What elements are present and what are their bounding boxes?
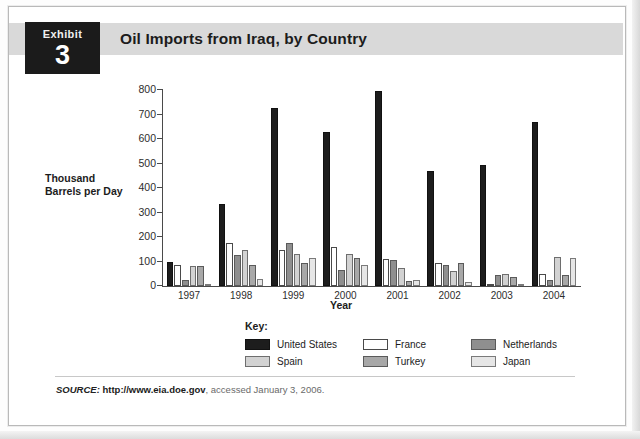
bar bbox=[518, 284, 525, 286]
bar bbox=[338, 270, 345, 286]
y-tick-label: 300 bbox=[112, 206, 156, 218]
bar bbox=[197, 266, 204, 286]
legend-label: Netherlands bbox=[503, 339, 557, 350]
plot-area: 19971998199920002001200220032004 bbox=[163, 90, 580, 286]
y-tick-mark bbox=[157, 212, 163, 213]
bar bbox=[182, 280, 189, 286]
y-tick-mark bbox=[157, 163, 163, 164]
y-tick-mark bbox=[157, 285, 163, 286]
legend-label: Spain bbox=[277, 356, 303, 367]
x-tick-label: 1998 bbox=[215, 290, 267, 301]
scan-edge-bottom bbox=[0, 431, 640, 439]
bar bbox=[532, 122, 539, 286]
bar-group: 1997 bbox=[163, 90, 215, 286]
bar bbox=[309, 258, 316, 286]
bar bbox=[375, 91, 382, 286]
legend-swatch bbox=[363, 339, 388, 350]
bar bbox=[390, 260, 397, 286]
bar-group: 1999 bbox=[267, 90, 319, 286]
bar bbox=[495, 275, 502, 286]
bar bbox=[487, 284, 494, 286]
bar bbox=[271, 108, 278, 286]
y-tick-label: 0 bbox=[112, 279, 156, 291]
legend-label: United States bbox=[277, 339, 337, 350]
bar bbox=[427, 171, 434, 286]
legend-item: France bbox=[363, 339, 471, 350]
bar bbox=[570, 258, 577, 286]
bar bbox=[450, 271, 457, 286]
source-note: SOURCE: http://www.eia.doe.gov, accessed… bbox=[56, 384, 324, 395]
y-tick-mark bbox=[157, 236, 163, 237]
y-tick-mark bbox=[157, 261, 163, 262]
bar bbox=[547, 280, 554, 286]
y-axis-tick-labels: 0100200300400500600700800 bbox=[108, 89, 156, 287]
bar bbox=[539, 274, 546, 286]
legend-label: Turkey bbox=[395, 356, 425, 367]
legend-item: Spain bbox=[245, 356, 363, 367]
x-tick-label: 1997 bbox=[163, 290, 215, 301]
legend-items: United StatesFranceNetherlandsSpainTurke… bbox=[245, 336, 575, 370]
y-tick-mark bbox=[157, 89, 163, 90]
bar-group: 2003 bbox=[476, 90, 528, 286]
exhibit-badge: Exhibit 3 bbox=[25, 22, 100, 74]
bar bbox=[257, 279, 264, 286]
x-axis-line bbox=[162, 286, 581, 287]
bar bbox=[279, 250, 286, 286]
source-url[interactable]: http://www.eia.doe.gov bbox=[102, 384, 205, 395]
bar bbox=[234, 255, 241, 286]
bar bbox=[435, 263, 442, 286]
chart-legend: Key: United StatesFranceNetherlandsSpain… bbox=[245, 320, 575, 370]
y-tick-label: 600 bbox=[112, 132, 156, 144]
bar bbox=[562, 275, 569, 286]
bar bbox=[167, 262, 174, 287]
legend-swatch bbox=[245, 339, 270, 350]
bar bbox=[465, 282, 472, 286]
legend-item: Netherlands bbox=[471, 339, 575, 350]
y-tick-mark bbox=[157, 138, 163, 139]
x-axis-title: Year bbox=[330, 299, 352, 311]
legend-swatch bbox=[363, 356, 388, 367]
x-tick-label: 2003 bbox=[476, 290, 528, 301]
legend-item: Japan bbox=[471, 356, 575, 367]
source-rest: , accessed January 3, 2006. bbox=[206, 384, 325, 395]
bar-group: 2000 bbox=[319, 90, 371, 286]
legend-swatch bbox=[245, 356, 270, 367]
x-tick-label: 1999 bbox=[267, 290, 319, 301]
x-tick-label: 2001 bbox=[372, 290, 424, 301]
bar bbox=[301, 263, 308, 286]
legend-label: Japan bbox=[503, 356, 530, 367]
legend-item: United States bbox=[245, 339, 363, 350]
bar bbox=[226, 243, 233, 286]
source-divider bbox=[55, 376, 575, 377]
bar bbox=[354, 258, 361, 286]
y-tick-label: 200 bbox=[112, 230, 156, 242]
exhibit-number: 3 bbox=[25, 41, 100, 69]
bar bbox=[361, 265, 368, 286]
y-tick-mark bbox=[157, 187, 163, 188]
legend-title: Key: bbox=[245, 320, 575, 332]
bar-group: 2001 bbox=[372, 90, 424, 286]
bar bbox=[510, 277, 517, 286]
scan-edge-right bbox=[632, 0, 640, 439]
bar bbox=[502, 274, 509, 286]
bar bbox=[413, 280, 420, 286]
legend-swatch bbox=[471, 339, 496, 350]
exhibit-page: Exhibit 3 Oil Imports from Iraq, by Coun… bbox=[0, 0, 640, 439]
bar bbox=[190, 266, 197, 286]
exhibit-label: Exhibit bbox=[25, 28, 100, 40]
bar bbox=[294, 254, 301, 286]
x-tick-label: 2004 bbox=[528, 290, 580, 301]
bar-group: 2002 bbox=[424, 90, 476, 286]
bar bbox=[323, 132, 330, 286]
bar bbox=[219, 204, 226, 286]
source-prefix: SOURCE: bbox=[56, 384, 100, 395]
bar bbox=[480, 165, 487, 286]
legend-item: Turkey bbox=[363, 356, 471, 367]
bar bbox=[249, 265, 256, 286]
bar bbox=[554, 257, 561, 286]
bar bbox=[383, 259, 390, 286]
bar bbox=[346, 254, 353, 286]
y-tick-label: 100 bbox=[112, 255, 156, 267]
bar bbox=[174, 265, 181, 286]
bar bbox=[398, 268, 405, 286]
